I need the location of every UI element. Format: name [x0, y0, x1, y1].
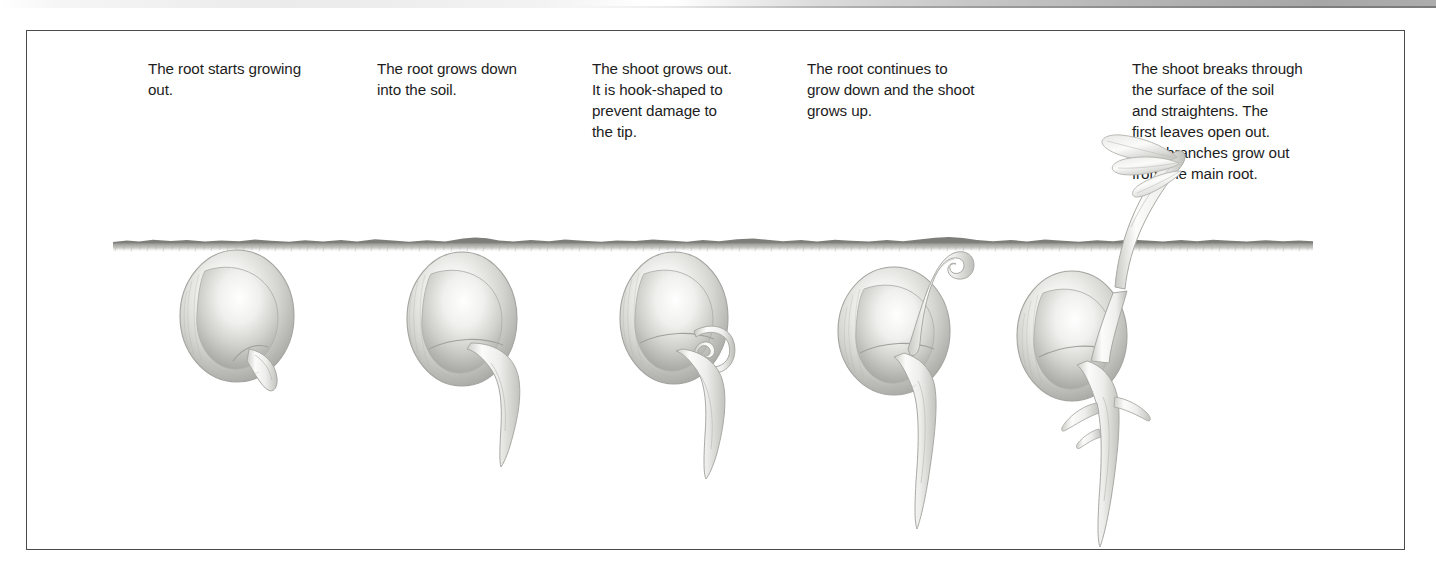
caption-stage-4: The root continues to grow down and the … [807, 58, 1037, 121]
illustration-frame: The root starts growing out. The root gr… [26, 30, 1405, 550]
seed-body-stage-5 [1017, 271, 1150, 547]
illustration-stage-1 [137, 31, 397, 550]
seed-body-stage-2 [407, 252, 520, 467]
caption-stage-5: The shoot breaks through the surface of … [1132, 58, 1357, 184]
germination-diagram-page: The root starts growing out. The root gr… [0, 0, 1436, 587]
seed-body-stage-4 [838, 252, 974, 529]
caption-stage-1: The root starts growing out. [148, 58, 363, 100]
caption-stage-3: The shoot grows out. It is hook-shaped t… [592, 58, 792, 142]
seed-body-stage-1 [180, 250, 294, 391]
caption-stage-2: The root grows down into the soil. [377, 58, 577, 100]
scanner-edge-artifact [0, 0, 1436, 8]
soil-surface-line [113, 231, 1313, 253]
seed-body-stage-3 [620, 252, 735, 479]
illustration-stage-2 [367, 31, 627, 550]
